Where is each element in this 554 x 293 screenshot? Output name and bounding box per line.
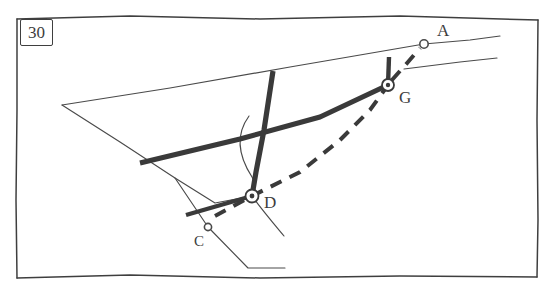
sketch-frame bbox=[16, 16, 538, 278]
line-through-c bbox=[175, 178, 285, 268]
figure-number-box: 30 bbox=[20, 19, 53, 46]
point-a: A bbox=[420, 21, 450, 48]
point-d-label: D bbox=[264, 193, 276, 212]
line-ray-a-right-upper bbox=[424, 36, 500, 44]
point-c: C bbox=[194, 223, 212, 249]
point-c-label: C bbox=[194, 233, 204, 249]
dashed-g-to-a bbox=[392, 48, 420, 80]
frame-right-edge bbox=[537, 20, 538, 277]
point-a-label: A bbox=[437, 21, 450, 40]
thick-line-group bbox=[140, 57, 389, 215]
line-lower-plane-edge bbox=[62, 105, 252, 203]
figure-number-label: 30 bbox=[28, 23, 45, 43]
frame-left-edge bbox=[16, 19, 17, 278]
point-g-label: G bbox=[399, 88, 411, 107]
point-g: G bbox=[382, 79, 411, 107]
sketch-page: A G D C 30 bbox=[0, 0, 554, 293]
frame-top-edge bbox=[17, 16, 538, 20]
line-ray-a-right-lower bbox=[404, 58, 497, 69]
sketch-canvas: A G D C bbox=[0, 0, 554, 293]
frame-bottom-edge bbox=[17, 275, 537, 278]
point-d-dot bbox=[250, 194, 255, 199]
point-c-marker bbox=[204, 223, 211, 230]
point-a-marker bbox=[420, 40, 428, 48]
thin-line-group bbox=[62, 36, 500, 268]
point-g-dot bbox=[386, 83, 390, 87]
